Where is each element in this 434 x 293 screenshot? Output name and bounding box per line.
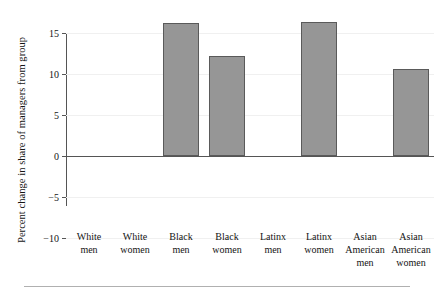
x-axis-label: AsianAmericanmen: [342, 230, 388, 269]
bar-slot: [250, 0, 296, 238]
x-axis-label: Whitewomen: [112, 230, 158, 256]
plot-area: 151050−5−10: [66, 0, 434, 238]
y-tick-label: 15: [49, 28, 59, 39]
x-axis-label-line: men: [158, 243, 204, 256]
x-axis-label-line: men: [250, 243, 296, 256]
x-axis-label: Latinxwomen: [296, 230, 342, 256]
x-axis-label: Blackwomen: [204, 230, 250, 256]
x-axis-label: AsianAmericanwomen: [388, 230, 434, 269]
y-axis-title: Percent change in share of managers from…: [16, 37, 27, 243]
y-tick-label: 0: [54, 151, 59, 162]
x-axis-label-line: Black: [204, 230, 250, 243]
x-axis-label-line: Latinx: [250, 230, 296, 243]
bar-series: [66, 0, 434, 238]
bar-slot: [158, 0, 204, 238]
x-axis-label-line: White: [66, 230, 112, 243]
bar: [301, 22, 337, 156]
bar: [209, 56, 245, 156]
x-axis-label-line: American: [388, 243, 434, 256]
x-axis-label-line: women: [388, 256, 434, 269]
y-axis-title-container: Percent change in share of managers from…: [0, 0, 20, 250]
x-axis-label: Blackmen: [158, 230, 204, 256]
bar: [163, 23, 199, 156]
x-axis-category-labels: WhitemenWhitewomenBlackmenBlackwomenLati…: [66, 230, 434, 280]
x-axis-label-line: women: [296, 243, 342, 256]
y-tick-label: 10: [49, 69, 59, 80]
y-tick-label: −5: [48, 192, 59, 203]
bar-chart-figure: Percent change in share of managers from…: [0, 0, 434, 293]
bar-slot: [66, 0, 112, 238]
x-axis-label-line: Asian: [342, 230, 388, 243]
x-axis-label-line: Black: [158, 230, 204, 243]
figure-bottom-rule: [24, 286, 410, 287]
x-axis-label-line: American: [342, 243, 388, 256]
bar-slot: [112, 0, 158, 238]
bar: [393, 69, 429, 156]
y-tick-label: 5: [54, 110, 59, 121]
x-axis-label-line: men: [66, 243, 112, 256]
x-axis-label-line: women: [112, 243, 158, 256]
x-axis-label-line: Asian: [388, 230, 434, 243]
bar-slot: [342, 0, 388, 238]
x-axis-label-line: White: [112, 230, 158, 243]
y-tick-label: −10: [43, 233, 59, 244]
x-axis-label-line: Latinx: [296, 230, 342, 243]
x-axis-label: Latinxmen: [250, 230, 296, 256]
bar-slot: [204, 0, 250, 238]
x-axis-label-line: men: [342, 256, 388, 269]
bar-slot: [388, 0, 434, 238]
x-axis-label: Whitemen: [66, 230, 112, 256]
x-axis-label-line: women: [204, 243, 250, 256]
bar-slot: [296, 0, 342, 238]
